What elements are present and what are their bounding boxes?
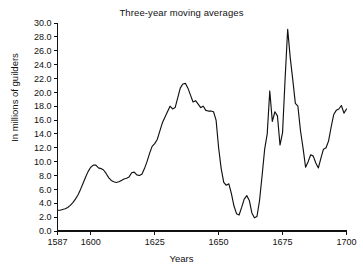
y-tick-label: 22.0	[34, 74, 52, 84]
x-tick-label: 1600	[81, 237, 101, 247]
y-tick-label: 8.0	[39, 171, 52, 181]
y-tick-label: 12.0	[34, 143, 52, 153]
y-tick-label: 6.0	[39, 185, 52, 195]
y-tick-label: 20.0	[34, 88, 52, 98]
y-tick-label: 18.0	[34, 101, 52, 111]
y-tick-label: 24.0	[34, 60, 52, 70]
y-tick-label: 0.0	[39, 226, 52, 236]
chart-figure: Three-year moving averages In millions o…	[0, 0, 363, 274]
x-tick-label: 1625	[145, 237, 165, 247]
plot-area: 0.02.04.06.08.010.012.014.016.018.020.02…	[0, 0, 363, 274]
x-tick-label: 1675	[273, 237, 293, 247]
x-tick-label: 1587	[47, 237, 67, 247]
y-tick-label: 14.0	[34, 129, 52, 139]
axis-spines	[58, 23, 347, 231]
y-tick-label: 26.0	[34, 46, 52, 56]
x-axis-tick-labels: 158716001625165016751700	[47, 237, 356, 247]
y-tick-label: 10.0	[34, 157, 52, 167]
y-tick-label: 2.0	[39, 212, 52, 222]
data-series-line	[58, 29, 347, 218]
y-axis-tick-labels: 0.02.04.06.08.010.012.014.016.018.020.02…	[34, 18, 52, 236]
x-tick-label: 1650	[209, 237, 229, 247]
y-tick-label: 4.0	[39, 198, 52, 208]
y-tick-label: 28.0	[34, 32, 52, 42]
y-tick-label: 30.0	[34, 18, 52, 28]
x-tick-label: 1700	[336, 237, 356, 247]
y-tick-label: 16.0	[34, 115, 52, 125]
